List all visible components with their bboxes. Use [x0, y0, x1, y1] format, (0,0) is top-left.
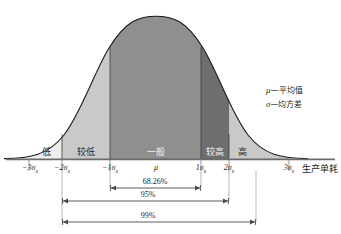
distribution-bands	[4, 16, 308, 159]
band-label-high: 高	[230, 145, 254, 158]
legend-item-mu: μ—平均值	[266, 84, 303, 95]
tick-sub-minus-2: x	[67, 168, 69, 174]
tick-prefix-minus-3: −3	[22, 163, 31, 172]
normal-distribution-svg	[0, 0, 341, 234]
tick-label-plus-1-sigma: 1σx	[186, 163, 216, 174]
tick-label-plus-3-sigma: 3σx	[274, 163, 304, 174]
tick-label-minus-2-sigma: −2σx	[46, 163, 78, 174]
interval-label-one-sigma: 68.26%	[125, 177, 185, 186]
tick-sub-plus-2: x	[232, 168, 234, 174]
tick-label-minus-1-sigma: −1σx	[94, 163, 126, 174]
interval-label-two-sigma: 95%	[126, 190, 170, 199]
tick-label-mu: μ	[141, 163, 171, 172]
legend-text-mu: 平均值	[279, 86, 303, 95]
tick-prefix-minus-2: −2	[54, 163, 63, 172]
figure-canvas: 低 较低 一般 较高 高 −3σx −2σx −1σx μ 1σx 2σx 3σ…	[0, 0, 341, 234]
legend-text-sigma: 均方差	[278, 100, 302, 109]
band-label-low: 低	[34, 145, 58, 158]
tick-sub-plus-1: x	[204, 168, 206, 174]
band-normal	[4, 16, 308, 159]
tick-label-minus-3-sigma: −3σx	[14, 163, 46, 174]
band-label-higher: 较高	[201, 145, 229, 158]
x-axis-title: 生产单耗	[302, 162, 338, 175]
band-label-lower: 较低	[64, 145, 108, 158]
tick-label-plus-2-sigma: 2σx	[214, 163, 244, 174]
legend-dash-mu: —	[271, 86, 279, 95]
legend-item-sigma: σ—均方差	[266, 98, 302, 109]
band-label-normal: 一般	[126, 145, 186, 158]
tick-symbol-mu: μ	[154, 163, 158, 172]
tick-sub-plus-3: x	[292, 168, 294, 174]
tick-sub-minus-3: x	[35, 168, 37, 174]
interval-label-three-sigma: 99%	[126, 211, 170, 220]
tick-sub-minus-1: x	[115, 168, 117, 174]
tick-prefix-minus-1: −1	[102, 163, 111, 172]
